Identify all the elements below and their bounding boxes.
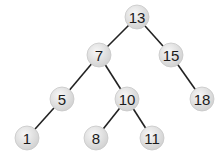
tree-node-8: 8 <box>84 126 108 150</box>
tree-node-7: 7 <box>87 43 111 67</box>
node-label: 10 <box>119 91 136 108</box>
tree-node-18: 18 <box>190 87 214 111</box>
node-label: 8 <box>92 130 100 147</box>
node-label: 11 <box>144 130 160 147</box>
node-label: 18 <box>194 91 211 108</box>
tree-edges <box>27 17 202 138</box>
tree-node-15: 15 <box>159 43 183 67</box>
tree-node-13: 13 <box>125 5 149 29</box>
node-label: 15 <box>163 47 180 64</box>
node-label: 5 <box>58 91 66 108</box>
tree-node-5: 5 <box>50 87 74 111</box>
tree-node-11: 11 <box>140 126 164 150</box>
tree-diagram: 13715510181811 <box>0 0 224 163</box>
tree-nodes: 13715510181811 <box>15 5 214 150</box>
node-label: 7 <box>95 47 103 64</box>
tree-node-1: 1 <box>15 126 39 150</box>
node-label: 1 <box>23 130 31 147</box>
node-label: 13 <box>129 9 146 26</box>
tree-node-10: 10 <box>115 87 139 111</box>
